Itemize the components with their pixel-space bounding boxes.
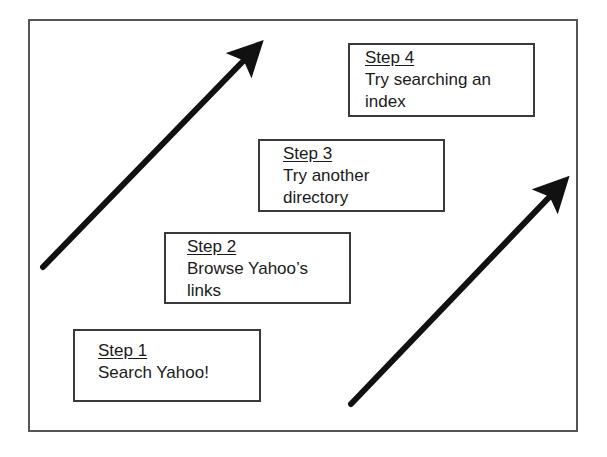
step-4-line-2: index [365,91,491,113]
step-4-title: Step 4 [365,47,491,69]
step-2-line-1: Browse Yahoo’s [187,258,308,280]
step-4-line-1: Try searching an [365,69,491,91]
step-3-line-2: directory [283,187,369,209]
step-1-title: Step 1 [98,340,209,362]
step-3-text: Step 3 Try another directory [283,143,369,209]
step-1-line-1: Search Yahoo! [98,362,209,384]
step-3-title: Step 3 [283,143,369,165]
step-2-line-2: links [187,280,308,302]
step-3-line-1: Try another [283,165,369,187]
step-4-text: Step 4 Try searching an index [365,47,491,113]
step-2-text: Step 2 Browse Yahoo’s links [187,236,308,302]
step-1-text: Step 1 Search Yahoo! [98,340,209,384]
step-2-title: Step 2 [187,236,308,258]
arrow-right-icon [351,188,558,404]
